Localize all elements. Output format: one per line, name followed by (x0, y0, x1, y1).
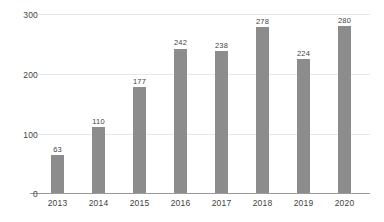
bar-value-2015: 177 (120, 77, 160, 86)
bar-2020[interactable] (338, 26, 351, 193)
bar-value-2016: 242 (161, 38, 201, 47)
bar-value-2020: 280 (325, 16, 365, 25)
xtick-label-2019: 2019 (284, 198, 324, 208)
bar-2016[interactable] (174, 49, 187, 193)
bar-2018[interactable] (256, 27, 269, 193)
xtick-label-2015: 2015 (120, 198, 160, 208)
bar-value-2018: 278 (243, 17, 283, 26)
xtick-label-2014: 2014 (79, 198, 119, 208)
bar-2017[interactable] (215, 51, 228, 193)
bar-value-2017: 238 (202, 41, 242, 50)
xtick-label-2017: 2017 (202, 198, 242, 208)
bar-2019[interactable] (297, 59, 310, 193)
xtick-label-2020: 2020 (325, 198, 365, 208)
bar-2015[interactable] (133, 87, 146, 193)
bar-value-2019: 224 (284, 49, 324, 58)
bar-chart: 300 200 100 0 63 2013 110 2014 177 2015 … (0, 0, 384, 222)
bar-value-2014: 110 (79, 117, 119, 126)
bar-2014[interactable] (92, 127, 105, 193)
xtick-label-2016: 2016 (161, 198, 201, 208)
xtick-label-2013: 2013 (38, 198, 78, 208)
bars-layer: 63 2013 110 2014 177 2015 242 2016 238 2… (0, 0, 384, 222)
bar-2013[interactable] (51, 155, 64, 193)
bar-value-2013: 63 (38, 145, 78, 154)
xtick-label-2018: 2018 (243, 198, 283, 208)
